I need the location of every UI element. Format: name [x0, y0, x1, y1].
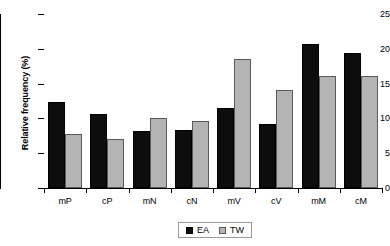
bar-ea-cp: [90, 114, 107, 188]
x-axis-tick: [171, 188, 172, 193]
bar-ea-mn: [133, 131, 150, 188]
legend-entry-tw: TW: [219, 226, 244, 235]
legend-swatch-icon: [219, 227, 226, 234]
bar-ea-mm: [302, 44, 319, 188]
bar-tw-cn: [192, 121, 209, 189]
x-axis-tick: [213, 188, 214, 193]
x-axis-tick-label: cN: [170, 196, 214, 206]
x-axis-tick: [340, 188, 341, 193]
x-axis-tick-label: mN: [128, 196, 172, 206]
bar-chart: Relative frequency (%) 0510152025 mPcPmN…: [0, 0, 390, 246]
bar-tw-cm: [361, 76, 378, 188]
bar-ea-cm: [344, 53, 361, 188]
bar-ea-mp: [48, 102, 65, 188]
legend-swatch-icon: [186, 227, 193, 234]
legend-label: TW: [230, 226, 244, 235]
legend-label: EA: [197, 226, 209, 235]
bar-tw-mv: [234, 59, 251, 188]
bar-tw-mp: [65, 134, 82, 188]
x-axis-tick-label: cM: [339, 196, 383, 206]
bar-tw-mn: [150, 118, 167, 188]
y-axis-line: [0, 14, 1, 189]
bars-layer: [44, 14, 382, 188]
bar-tw-mm: [319, 76, 336, 188]
x-axis-tick: [86, 188, 87, 193]
bar-ea-cv: [259, 124, 276, 188]
chart-legend: EATW: [178, 222, 252, 238]
x-axis-tick-label: cV: [254, 196, 298, 206]
x-axis-tick: [129, 188, 130, 193]
x-axis-tick: [382, 188, 383, 193]
y-axis-title: Relative frequency (%): [20, 23, 30, 183]
x-axis-tick-label: mP: [43, 196, 87, 206]
x-axis-tick: [298, 188, 299, 193]
legend-entry-ea: EA: [186, 226, 209, 235]
bar-ea-cn: [175, 130, 192, 188]
bar-ea-mv: [217, 108, 234, 188]
x-axis-tick-label: cP: [85, 196, 129, 206]
x-axis-tick: [255, 188, 256, 193]
bar-tw-cp: [107, 139, 124, 188]
bar-tw-cv: [276, 90, 293, 188]
x-axis-tick: [44, 188, 45, 193]
x-axis-tick-label: mM: [297, 196, 341, 206]
x-axis-tick-label: mV: [212, 196, 256, 206]
